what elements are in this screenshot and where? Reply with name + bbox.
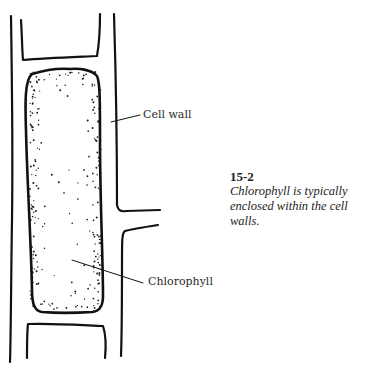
left-cell-wall: [10, 16, 12, 362]
top-cell-outline: [21, 14, 100, 60]
right-cell-wall-lower: [121, 225, 158, 356]
cell-wall-label: Cell wall: [143, 108, 191, 121]
caption-text: Chlorophyll is typically enclosed within…: [230, 184, 374, 229]
bottom-cell-outline: [27, 324, 106, 358]
chlorophyll-leader-line: [72, 260, 143, 283]
figure-number: 15-2: [230, 170, 374, 184]
chlorophyll-stipple: [29, 71, 102, 310]
chlorophyll-body: [26, 69, 103, 313]
chlorophyll-label: Chlorophyll: [148, 275, 213, 288]
figure-caption: 15-2 Chlorophyll is typically enclosed w…: [230, 170, 374, 229]
